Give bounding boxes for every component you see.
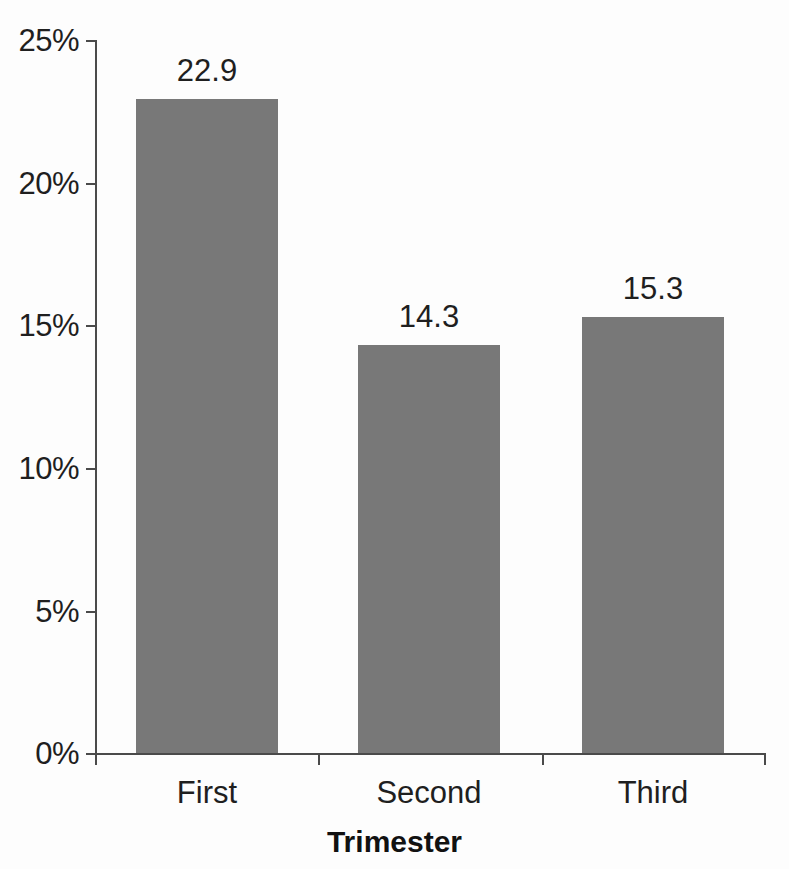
plot-area: 25% 20% 15% 10% 5% 0% 22.9 14.3 15.3 Fir… <box>0 0 789 869</box>
x-axis-tick <box>95 753 97 765</box>
bar-value-label-third: 15.3 <box>582 273 724 304</box>
y-axis-tick-label: 10% <box>0 453 79 484</box>
y-axis-tick-label: 25% <box>0 25 79 56</box>
x-axis-tick <box>764 753 766 765</box>
x-axis-tick <box>542 753 544 765</box>
bar-third[interactable] <box>582 317 724 753</box>
y-axis-tick <box>86 325 96 327</box>
y-axis-line <box>95 40 97 754</box>
bar-first[interactable] <box>136 99 278 753</box>
y-axis-tick-label: 15% <box>0 310 79 341</box>
x-axis-category-label-third: Third <box>582 777 724 808</box>
bar-chart: 25% 20% 15% 10% 5% 0% 22.9 14.3 15.3 Fir… <box>0 0 789 869</box>
x-axis-line <box>95 753 766 755</box>
x-axis-category-label-first: First <box>136 777 278 808</box>
y-axis-tick <box>86 183 96 185</box>
bar-value-label-first: 22.9 <box>136 55 278 86</box>
bar-second[interactable] <box>358 345 500 753</box>
x-axis-title: Trimester <box>0 826 789 858</box>
y-axis-tick-label: 20% <box>0 168 79 199</box>
x-axis-category-label-second: Second <box>358 777 500 808</box>
x-axis-tick <box>318 753 320 765</box>
y-axis-tick <box>86 40 96 42</box>
y-axis-tick-label: 5% <box>0 596 79 627</box>
y-axis-tick <box>86 611 96 613</box>
bar-value-label-second: 14.3 <box>358 301 500 332</box>
y-axis-tick-label: 0% <box>0 738 79 769</box>
y-axis-tick <box>86 468 96 470</box>
